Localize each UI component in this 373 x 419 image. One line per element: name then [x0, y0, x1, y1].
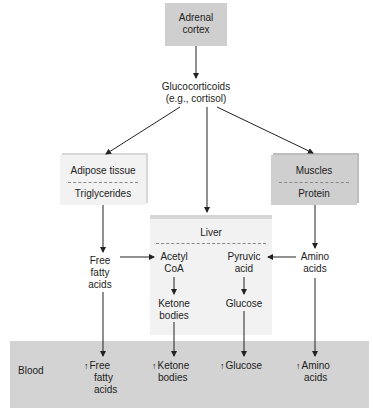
arrow-connectors: [0, 0, 373, 419]
